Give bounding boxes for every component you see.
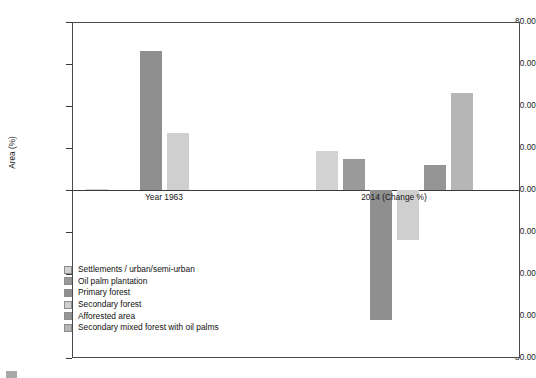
legend-swatch-icon xyxy=(64,301,72,309)
legend-item: Secondary forest xyxy=(64,299,219,311)
legend-item: Primary forest xyxy=(64,287,219,299)
x-category-label: Year 1963 xyxy=(94,193,234,202)
bar xyxy=(316,151,338,190)
bar xyxy=(140,51,162,190)
bar xyxy=(167,133,189,190)
figure-caption xyxy=(6,370,526,378)
legend-item: Settlements / urban/semi-urban xyxy=(64,264,219,276)
legend-label: Settlements / urban/semi-urban xyxy=(78,265,195,274)
zero-baseline xyxy=(72,190,520,191)
legend-label: Oil palm plantation xyxy=(78,277,147,286)
legend-label: Primary forest xyxy=(78,288,130,297)
legend-item: Afforested area xyxy=(64,310,219,322)
legend-label: Secondary forest xyxy=(78,300,141,309)
legend-label: Secondary mixed forest with oil palms xyxy=(78,323,219,332)
legend-swatch-icon xyxy=(64,312,72,320)
legend-swatch-icon xyxy=(64,289,72,297)
bar xyxy=(370,190,392,320)
legend-swatch-icon xyxy=(64,277,72,285)
y-axis-title: Area (%) xyxy=(8,123,17,183)
bar xyxy=(424,165,446,190)
bar xyxy=(451,93,473,190)
x-category-label: 2014 (Change %) xyxy=(324,193,464,202)
chart-legend: Settlements / urban/semi-urbanOil palm p… xyxy=(64,264,219,334)
bar xyxy=(343,159,365,191)
bar xyxy=(86,189,108,190)
legend-item: Oil palm plantation xyxy=(64,276,219,288)
legend-item: Secondary mixed forest with oil palms xyxy=(64,322,219,334)
legend-label: Afforested area xyxy=(78,312,135,321)
legend-swatch-icon xyxy=(64,324,72,332)
legend-swatch-icon xyxy=(64,266,72,274)
y-tick-mark xyxy=(66,358,72,359)
chart-figure: Area (%) 80.0060.0040.0020.000.00-20.00-… xyxy=(0,0,536,378)
